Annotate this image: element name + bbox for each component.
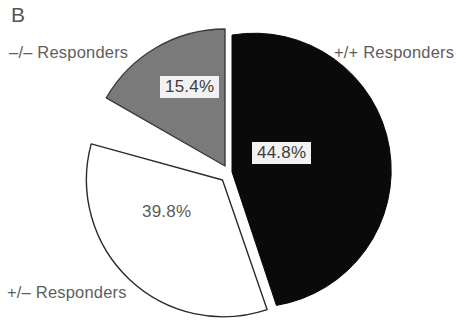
- value-label-heterozygous: 39.8%: [142, 203, 191, 220]
- panel-letter: B: [11, 4, 25, 25]
- category-label-positive: +/+ Responders: [334, 44, 454, 61]
- category-label-negative: –/– Responders: [9, 44, 128, 61]
- value-label-negative: 15.4%: [160, 76, 219, 98]
- value-label-positive: 44.8%: [252, 142, 311, 164]
- pie-slice-positive[interactable]: [232, 33, 391, 305]
- pie-chart-figure: B –/– Responders +/+ Responders +/– Resp…: [0, 0, 456, 330]
- category-label-heterozygous: +/– Responders: [7, 284, 127, 301]
